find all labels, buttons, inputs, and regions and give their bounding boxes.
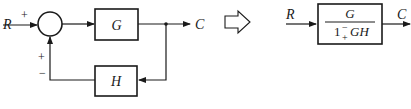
denominator-one: 1 <box>334 24 341 39</box>
block-diagram: R + G C H + − R G 1 − + GH <box>0 0 411 109</box>
input-plus-sign: + <box>21 8 28 22</box>
feedback-path-to-junction <box>50 37 95 80</box>
feedback-plus-sign: + <box>38 50 45 64</box>
feedback-system: R + G C H + − <box>2 8 205 96</box>
equiv-input-label-r: R <box>285 7 295 22</box>
feedback-minus-sign: − <box>39 66 46 80</box>
feedback-path-to-h <box>139 24 166 80</box>
denominator-plus-sign: + <box>342 32 348 43</box>
equiv-output-label-c: C <box>397 7 407 22</box>
equivalent-system: R G 1 − + GH C <box>285 4 410 44</box>
forward-block-label: G <box>111 18 121 33</box>
hollow-right-arrow-icon <box>225 11 250 33</box>
transfer-numerator: G <box>345 6 355 21</box>
output-label-c: C <box>195 17 205 32</box>
feedback-block-label: H <box>110 74 122 89</box>
denominator-gh: GH <box>350 24 369 39</box>
summing-junction <box>38 12 62 36</box>
